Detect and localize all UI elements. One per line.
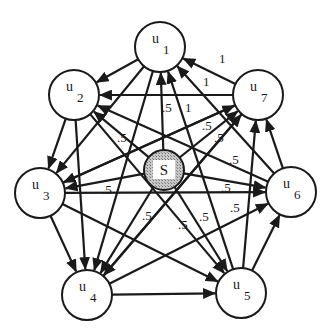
edge-weight-label: .5 [230,200,240,215]
edge-weight-label: .5 [199,209,209,224]
edge-weight-label: .5 [178,217,188,232]
edge-weight-label: .5 [142,208,152,223]
edge-weight-label: .5 [214,130,224,145]
directed-graph: Su1u2u3u4u5u6u7 11.51.5.5.5.5.5.5.5.5.5.… [0,0,331,336]
node-label-u7: u [250,79,257,94]
node-source-s: S [144,150,184,190]
edge-weight-label: .5 [117,130,127,145]
edge-weight-label: 1 [185,100,192,115]
node-u2: u2 [49,70,99,120]
edge-weight-label: 1 [219,51,226,66]
node-label-u2: u [66,79,73,94]
edge-weight-label: .5 [102,182,112,197]
node-u6: u6 [266,167,316,217]
node-label-u4: u [79,279,86,294]
node-subscript-u6: 6 [294,187,301,202]
edge-u5-to-u6 [252,215,279,270]
node-label-u3: u [32,177,39,192]
edge-u2-to-u3 [49,119,66,169]
edge-weight-label: .5 [229,152,239,167]
node-label-u5: u [233,277,240,292]
node-subscript-u4: 4 [90,290,97,305]
edge-u3-to-u6 [65,192,265,193]
edge-weight-label: .5 [202,118,212,133]
edge-weight-label: 1 [203,74,210,89]
node-subscript-u2: 2 [77,90,84,105]
node-u5: u5 [216,268,266,318]
edge-weight-label: .5 [221,180,231,195]
edge-u5-to-u7 [243,121,256,268]
edge-weight-label: .5 [162,100,172,115]
node-subscript-u1: 1 [163,42,170,57]
node-u1: u1 [135,22,185,72]
node-u3: u3 [15,168,65,218]
node-label-u6: u [283,176,290,191]
node-subscript-u3: 3 [43,188,50,203]
edge-u6-to-u7 [266,120,283,169]
node-label-u1: u [152,31,159,46]
node-u4: u4 [62,270,112,320]
edge-u4-to-u5 [112,293,215,294]
node-label-s: S [160,162,168,178]
node-u7: u7 [233,70,283,120]
node-subscript-u5: 5 [244,288,251,303]
edge-u3-to-u4 [51,216,77,272]
edge-u1-to-u2 [97,59,139,82]
edge-S-to-u4 [101,187,154,273]
node-subscript-u7: 7 [261,90,268,105]
